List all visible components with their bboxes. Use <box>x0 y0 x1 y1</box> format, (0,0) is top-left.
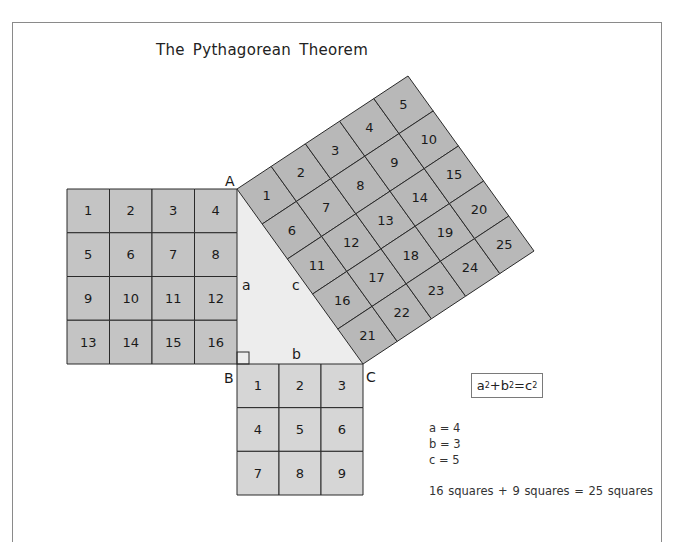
cell-number: 9 <box>338 466 346 481</box>
cell-number: 16 <box>334 293 351 308</box>
cell-number: 11 <box>165 291 182 306</box>
cell-number: 9 <box>84 291 92 306</box>
vertex-label-a: A <box>225 173 235 189</box>
side-label-a: a <box>242 277 251 293</box>
cell-number: 1 <box>263 188 271 203</box>
formula-a: a <box>477 378 485 393</box>
cell-number: 10 <box>420 132 437 147</box>
cell-number: 8 <box>296 466 304 481</box>
cell-number: 7 <box>169 247 177 262</box>
cell-number: 14 <box>411 190 428 205</box>
cell-number: 10 <box>122 291 139 306</box>
cell-number: 4 <box>212 203 220 218</box>
cell-number: 17 <box>368 270 385 285</box>
cell-number: 12 <box>343 235 360 250</box>
cell-number: 15 <box>165 335 182 350</box>
side-values-legend: a = 4 b = 3 c = 5 <box>429 420 461 468</box>
vertex-label-b: B <box>224 370 234 386</box>
cell-number: 6 <box>288 223 296 238</box>
cell-number: 14 <box>122 335 139 350</box>
formula-eq-c: =c <box>514 378 532 393</box>
side-label-c: c <box>292 277 300 293</box>
cell-number: 23 <box>428 283 445 298</box>
legend-c: c = 5 <box>429 452 461 468</box>
cell-number: 18 <box>402 248 419 263</box>
cell-number: 9 <box>390 155 398 170</box>
cell-number: 2 <box>296 378 304 393</box>
cell-number: 13 <box>80 335 97 350</box>
vertex-label-c: C <box>366 369 376 385</box>
cell-number: 15 <box>446 167 463 182</box>
cell-number: 5 <box>399 97 407 112</box>
cell-number: 5 <box>84 247 92 262</box>
side-label-b: b <box>292 346 301 362</box>
cell-number: 4 <box>365 120 373 135</box>
cell-number: 16 <box>207 335 224 350</box>
cell-number: 3 <box>331 143 339 158</box>
cell-number: 7 <box>254 466 262 481</box>
cell-number: 11 <box>309 258 326 273</box>
cell-number: 22 <box>393 305 410 320</box>
cell-number: 1 <box>254 378 262 393</box>
cell-number: 12 <box>207 291 224 306</box>
cell-number: 3 <box>169 203 177 218</box>
cell-number: 4 <box>254 422 262 437</box>
cell-number: 20 <box>471 202 488 217</box>
cell-number: 7 <box>322 200 330 215</box>
legend-b: b = 3 <box>429 436 461 452</box>
cell-number: 2 <box>127 203 135 218</box>
formula-box: a2+b2=c2 <box>471 373 543 398</box>
cell-number: 3 <box>338 378 346 393</box>
cell-number: 1 <box>84 203 92 218</box>
cell-number: 13 <box>377 213 394 228</box>
cell-number: 24 <box>462 260 479 275</box>
legend-a: a = 4 <box>429 420 461 436</box>
cell-number: 2 <box>297 165 305 180</box>
square-a-grid: 12345678910111213141516 <box>67 189 237 364</box>
square-b-grid: 123456789 <box>237 364 363 495</box>
cell-number: 8 <box>212 247 220 262</box>
cell-number: 5 <box>296 422 304 437</box>
cell-number: 19 <box>437 225 454 240</box>
cell-number: 6 <box>127 247 135 262</box>
cell-number: 25 <box>496 237 513 252</box>
squares-summary: 16 squares + 9 squares = 25 squares <box>429 484 653 498</box>
cell-number: 8 <box>356 178 364 193</box>
cell-number: 6 <box>338 422 346 437</box>
cell-number: 21 <box>359 328 376 343</box>
formula-plus-b: +b <box>490 378 509 393</box>
